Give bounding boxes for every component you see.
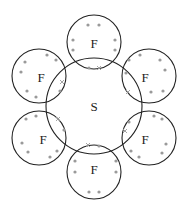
fluorine-electron-dot bbox=[138, 53, 141, 56]
fluorine-electron-dot bbox=[45, 53, 48, 56]
fluorine-electron-dot bbox=[163, 68, 166, 71]
fluorine-electron-dot bbox=[97, 144, 100, 147]
fluorine-electron-dot bbox=[161, 89, 164, 92]
sulfur-electron-cross bbox=[60, 80, 64, 84]
fluorine-electron-dot bbox=[48, 155, 51, 158]
fluorine-label: F bbox=[90, 162, 97, 177]
fluorine-electron-dot bbox=[158, 58, 161, 61]
fluorine-electron-dot bbox=[149, 90, 152, 93]
fluorine-electron-dot bbox=[127, 120, 130, 123]
fluorine-electron-dot bbox=[25, 89, 28, 92]
fluorine-electron-dot bbox=[152, 114, 155, 117]
fluorine-electron-dot bbox=[73, 159, 76, 162]
fluorine-electron-dot bbox=[113, 38, 116, 41]
sulfur-label: S bbox=[90, 99, 97, 114]
fluorine-label: F bbox=[37, 70, 44, 85]
fluorine-label: F bbox=[141, 70, 148, 85]
fluorine-electron-dot bbox=[58, 89, 61, 92]
fluorine-electron-dot bbox=[129, 149, 132, 152]
fluorine-electron-dot bbox=[127, 58, 130, 61]
fluorine-electron-dot bbox=[87, 190, 90, 193]
fluorine-electron-dot bbox=[55, 149, 58, 152]
fluorine-shell-circle bbox=[122, 49, 176, 103]
fluorine-label: F bbox=[39, 132, 46, 147]
fluorine-electron-dot bbox=[71, 38, 74, 41]
sulfur-electron-cross bbox=[123, 129, 127, 133]
fluorine-electron-dot bbox=[97, 190, 100, 193]
fluorine-electron-dot bbox=[54, 58, 57, 61]
fluorine-electron-dot bbox=[73, 170, 76, 173]
fluorine-electron-dot bbox=[164, 142, 167, 145]
sf6-dot-cross-diagram: FFFFFF S bbox=[0, 0, 186, 213]
fluorine-electron-dot bbox=[20, 141, 23, 144]
fluorine-electron-dot bbox=[97, 23, 100, 26]
fluorine-electron-dot bbox=[24, 117, 27, 120]
fluorine-label: F bbox=[141, 132, 148, 147]
fluorine-electron-dot bbox=[34, 114, 37, 117]
fluorine-electron-dot bbox=[160, 117, 163, 120]
fluorine-electron-dot bbox=[160, 151, 163, 154]
fluorine-electron-dot bbox=[137, 155, 140, 158]
fluorine-electron-dot bbox=[87, 66, 90, 69]
fluorine-label: F bbox=[90, 36, 97, 51]
fluorine-electron-dot bbox=[86, 23, 89, 26]
fluorine-electron-dot bbox=[124, 71, 127, 74]
fluorine-electron-dot bbox=[26, 150, 29, 153]
fluorine-electron-dot bbox=[19, 70, 22, 73]
fluorine-electron-dot bbox=[71, 48, 74, 51]
fluorine-electron-dot bbox=[114, 170, 117, 173]
fluorine-electron-dot bbox=[114, 159, 117, 162]
fluorine-electron-dot bbox=[62, 128, 65, 131]
fluorine-electron-dot bbox=[113, 48, 116, 51]
fluorine-electron-dot bbox=[34, 95, 37, 98]
sulfur-electron-cross bbox=[56, 117, 60, 121]
fluorine-electron-dot bbox=[23, 60, 26, 63]
